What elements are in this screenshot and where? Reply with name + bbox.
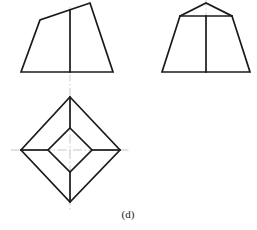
drawing-background <box>0 0 257 230</box>
figure-container: (d) <box>0 0 257 230</box>
technical-drawing-svg: (d) <box>0 0 257 230</box>
figure-caption: (d) <box>122 208 135 221</box>
